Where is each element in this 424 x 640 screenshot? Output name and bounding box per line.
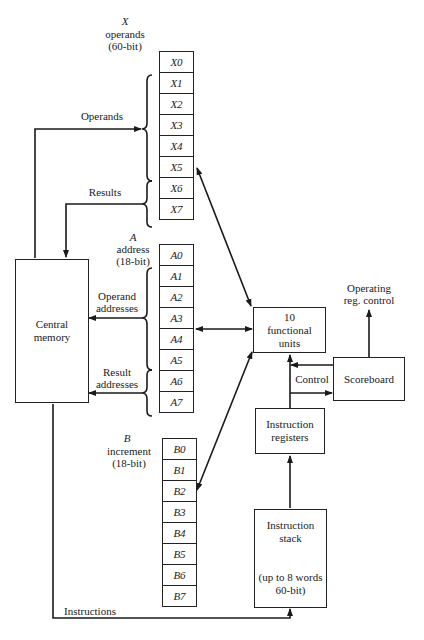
b-group-letter: B (112, 432, 142, 444)
functional-units-box: 10 functional units (253, 307, 326, 353)
register-x1: X1 (159, 72, 194, 94)
instruction-stack-box: Instruction stack (up to 8 words 60-bit) (254, 509, 327, 608)
register-x7: X7 (159, 198, 194, 220)
register-b7: B7 (162, 585, 197, 607)
label-instructions: Instructions (58, 605, 122, 617)
a-group-label-line2: (18-bit) (104, 255, 162, 267)
scoreboard-label: Scoreboard (344, 373, 394, 386)
register-x0: X0 (159, 51, 194, 73)
register-x5: X5 (159, 156, 194, 178)
label-operating-reg-control-line1: Operating (339, 282, 399, 294)
register-b2: B2 (162, 480, 197, 502)
register-b0: B0 (162, 438, 197, 460)
instruction-registers-label-line2: registers (271, 431, 308, 444)
functional-units-label-line3: units (279, 337, 300, 350)
brace-result-addresses (142, 370, 152, 416)
x-group-letter: X (110, 15, 140, 27)
register-b6: B6 (162, 564, 197, 586)
register-a5: A5 (159, 349, 194, 371)
label-results: Results (80, 186, 130, 198)
register-a7: A7 (159, 391, 194, 413)
register-a1: A1 (159, 265, 194, 287)
instruction-registers-label-line1: Instruction (266, 418, 314, 431)
register-x6: X6 (159, 177, 194, 199)
instruction-stack-label-line1: Instruction (267, 519, 315, 532)
register-b1: B1 (162, 459, 197, 481)
brace-operand-addresses (142, 268, 152, 370)
instruction-stack-label-line3: (up to 8 words (259, 571, 323, 584)
register-a4: A4 (159, 328, 194, 350)
label-result-addresses-line2: addresses (92, 378, 142, 390)
b-group-label-line2: (18-bit) (100, 457, 158, 469)
brace-results (142, 181, 152, 227)
arrow-b-fu (197, 352, 252, 490)
instruction-stack-label-line4: 60-bit) (276, 584, 306, 597)
central-memory-label-line2: memory (34, 331, 71, 344)
central-memory-label-line1: Central (36, 318, 68, 331)
register-x3: X3 (159, 114, 194, 136)
central-memory-box: Central memory (15, 259, 89, 403)
label-operating-reg-control-line2: reg. control (339, 294, 399, 306)
x-group-label-line2: (60-bit) (95, 40, 155, 52)
a-group-letter: A (118, 231, 148, 243)
x-group-label-line1: operands (95, 28, 155, 40)
functional-units-label-line2: functional (267, 324, 312, 337)
b-group-label-line1: increment (100, 445, 158, 457)
register-x4: X4 (159, 135, 194, 157)
label-control: Control (293, 373, 331, 385)
label-operand-addresses-line1: Operand (92, 290, 142, 302)
brace-operands (142, 75, 152, 181)
register-a3: A3 (159, 307, 194, 329)
register-a6: A6 (159, 370, 194, 392)
functional-units-label-line1: 10 (284, 311, 295, 324)
a-group-label-line1: address (104, 243, 162, 255)
instruction-registers-box: Instruction registers (255, 408, 325, 454)
register-b3: B3 (162, 501, 197, 523)
register-b5: B5 (162, 543, 197, 565)
register-a0: A0 (159, 244, 194, 266)
register-a2: A2 (159, 286, 194, 308)
label-operand-addresses-line2: addresses (92, 302, 142, 314)
label-result-addresses-line1: Result (92, 366, 142, 378)
register-b4: B4 (162, 522, 197, 544)
arrow-x-fu (197, 168, 251, 306)
scoreboard-box: Scoreboard (333, 357, 405, 401)
label-operands: Operands (72, 110, 132, 122)
register-x2: X2 (159, 93, 194, 115)
instruction-stack-label-line2: stack (279, 532, 302, 545)
